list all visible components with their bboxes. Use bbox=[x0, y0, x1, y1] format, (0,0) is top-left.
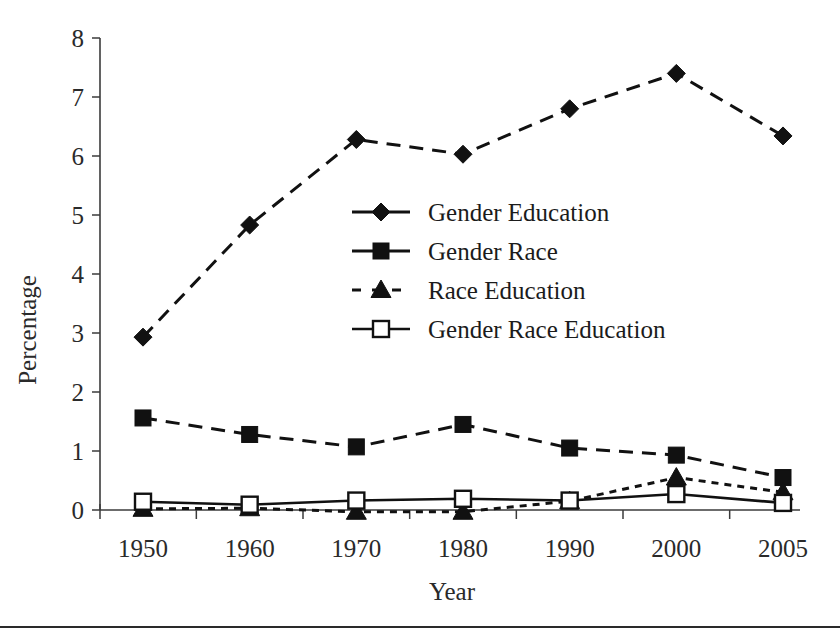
marker-open-square bbox=[242, 497, 258, 513]
marker-filled-diamond bbox=[454, 145, 472, 163]
y-tick-label: 5 bbox=[72, 202, 85, 229]
y-tick-label: 4 bbox=[72, 261, 85, 288]
marker-open-square bbox=[668, 486, 684, 502]
legend-label: Gender Race bbox=[428, 238, 558, 265]
x-tick-labels: 1950196019701980199020002005 bbox=[118, 535, 808, 562]
y-tick-label: 7 bbox=[72, 84, 85, 111]
legend-label: Gender Race Education bbox=[428, 316, 666, 343]
series-gender-race bbox=[135, 410, 791, 486]
x-tick-label: 1960 bbox=[225, 535, 275, 562]
marker-open-square bbox=[562, 493, 578, 509]
marker-filled-square bbox=[135, 410, 151, 426]
marker-filled-square bbox=[373, 243, 389, 259]
marker-filled-square bbox=[562, 440, 578, 456]
marker-open-square bbox=[455, 491, 471, 507]
marker-open-square bbox=[775, 495, 791, 511]
x-tick-label: 1970 bbox=[331, 535, 381, 562]
x-tick-label: 2005 bbox=[758, 535, 808, 562]
y-tick-marks bbox=[92, 38, 100, 510]
x-tick-label: 2000 bbox=[651, 535, 701, 562]
marker-filled-diamond bbox=[372, 203, 390, 221]
x-tick-marks bbox=[100, 504, 730, 519]
chart-figure: 012345678 1950196019701980199020002005 P… bbox=[0, 0, 840, 634]
x-tick-label: 1950 bbox=[118, 535, 168, 562]
legend-label: Race Education bbox=[428, 277, 586, 304]
legend-entry-gender-race[interactable]: Gender Race bbox=[352, 238, 558, 265]
marker-filled-square bbox=[455, 416, 471, 432]
legend-entry-gender-race-education[interactable]: Gender Race Education bbox=[352, 316, 666, 343]
chart-legend: Gender EducationGender RaceRace Educatio… bbox=[352, 199, 666, 343]
marker-filled-diamond bbox=[774, 127, 792, 145]
marker-filled-triangle bbox=[666, 468, 686, 486]
x-tick-label: 1980 bbox=[438, 535, 488, 562]
marker-open-square bbox=[348, 493, 364, 509]
y-axis-title: Percentage bbox=[14, 275, 41, 385]
marker-open-square bbox=[373, 321, 389, 337]
y-tick-label: 2 bbox=[72, 379, 85, 406]
y-tick-label: 3 bbox=[72, 320, 85, 347]
y-tick-label: 1 bbox=[72, 438, 85, 465]
marker-filled-square bbox=[242, 426, 258, 442]
x-axis-title: Year bbox=[429, 578, 476, 605]
y-tick-label: 6 bbox=[72, 143, 85, 170]
legend-entry-gender-education[interactable]: Gender Education bbox=[352, 199, 610, 226]
marker-filled-square bbox=[348, 439, 364, 455]
legend-entry-race-education[interactable]: Race Education bbox=[352, 277, 586, 304]
legend-label: Gender Education bbox=[428, 199, 610, 226]
y-tick-label: 8 bbox=[72, 25, 85, 52]
y-tick-labels: 012345678 bbox=[72, 25, 85, 524]
marker-filled-diamond bbox=[561, 100, 579, 118]
x-tick-label: 1990 bbox=[545, 535, 595, 562]
y-tick-label: 0 bbox=[72, 497, 85, 524]
line-chart: 012345678 1950196019701980199020002005 P… bbox=[0, 0, 840, 634]
marker-filled-square bbox=[668, 447, 684, 463]
marker-filled-diamond bbox=[667, 64, 685, 82]
marker-open-square bbox=[135, 494, 151, 510]
